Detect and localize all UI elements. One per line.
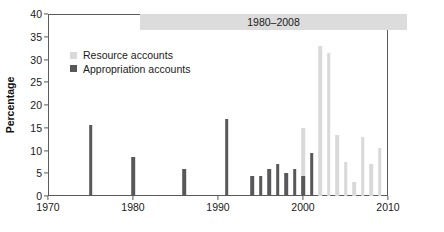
y-tick-mark: [44, 36, 48, 37]
x-tick-label: 1970: [36, 202, 59, 213]
y-tick-mark: [44, 173, 48, 174]
x-tick-mark: [302, 196, 303, 200]
y-axis-title-label: Percentage: [4, 77, 16, 134]
x-tick-label: 2010: [376, 202, 399, 213]
bar: [352, 182, 356, 196]
y-tick-mark: [44, 127, 48, 128]
bar: [131, 157, 135, 196]
y-tick-mark: [44, 59, 48, 60]
y-tick-mark: [44, 82, 48, 83]
bar: [267, 169, 271, 196]
y-tick-mark: [44, 150, 48, 151]
bar: [301, 176, 305, 196]
y-axis-title: Percentage: [2, 14, 18, 196]
bar: [327, 53, 331, 196]
x-tick-mark: [217, 196, 218, 200]
legend-swatch-resource-accounts: [70, 52, 77, 59]
bar: [344, 162, 348, 196]
legend-item-appropriation-accounts: Appropriation accounts: [70, 64, 190, 75]
legend-label-appropriation-accounts: Appropriation accounts: [83, 64, 190, 75]
bar: [318, 46, 322, 196]
bar: [182, 169, 186, 196]
bar: [335, 135, 339, 196]
y-tick-mark: [44, 104, 48, 105]
bar: [293, 169, 297, 196]
bar: [225, 119, 229, 196]
bar: [284, 173, 288, 196]
plot-area: 0510152025303540 19701980199020002010: [48, 14, 388, 196]
x-tick-mark: [387, 196, 388, 200]
chart-figure: Percentage 0510152025303540 197019801990…: [0, 0, 444, 232]
x-tick-label: 1990: [206, 202, 229, 213]
bar: [310, 153, 314, 196]
bar: [378, 148, 382, 196]
bar: [89, 125, 93, 196]
period-banner-label: 1980–2008: [247, 17, 300, 28]
x-tick-mark: [47, 196, 48, 200]
legend-swatch-appropriation-accounts: [70, 65, 77, 72]
bar: [259, 176, 263, 196]
bar: [369, 164, 373, 196]
legend-label-resource-accounts: Resource accounts: [83, 50, 173, 61]
bar: [361, 137, 365, 196]
x-tick-mark: [132, 196, 133, 200]
x-tick-label: 2000: [291, 202, 314, 213]
y-tick-mark: [44, 13, 48, 14]
x-tick-label: 1980: [121, 202, 144, 213]
chart-legend: Resource accounts Appropriation accounts: [70, 50, 190, 77]
period-banner: 1980–2008: [140, 14, 407, 30]
legend-item-resource-accounts: Resource accounts: [70, 50, 190, 61]
bar: [276, 164, 280, 196]
bar: [250, 176, 254, 196]
